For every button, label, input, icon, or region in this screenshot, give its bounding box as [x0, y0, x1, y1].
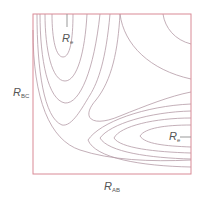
contour-ur-1	[163, 14, 191, 44]
contour-ul-3	[40, 14, 100, 103]
contour-diagram: Re Re RBC RAB	[0, 0, 200, 201]
x-axis-label: RAB	[104, 180, 120, 193]
contour-ul-2	[45, 14, 87, 81]
plot-frame	[33, 14, 191, 174]
contour-ul-4	[37, 14, 110, 125]
contour-lr-2	[114, 118, 191, 153]
y-axis-label: RBC	[13, 86, 30, 99]
contour-corner	[33, 30, 191, 161]
contour-ur-2	[120, 14, 191, 79]
contour-lr-1	[140, 125, 191, 147]
label-re-lower: Re	[169, 130, 181, 143]
contour-lines	[33, 14, 191, 167]
